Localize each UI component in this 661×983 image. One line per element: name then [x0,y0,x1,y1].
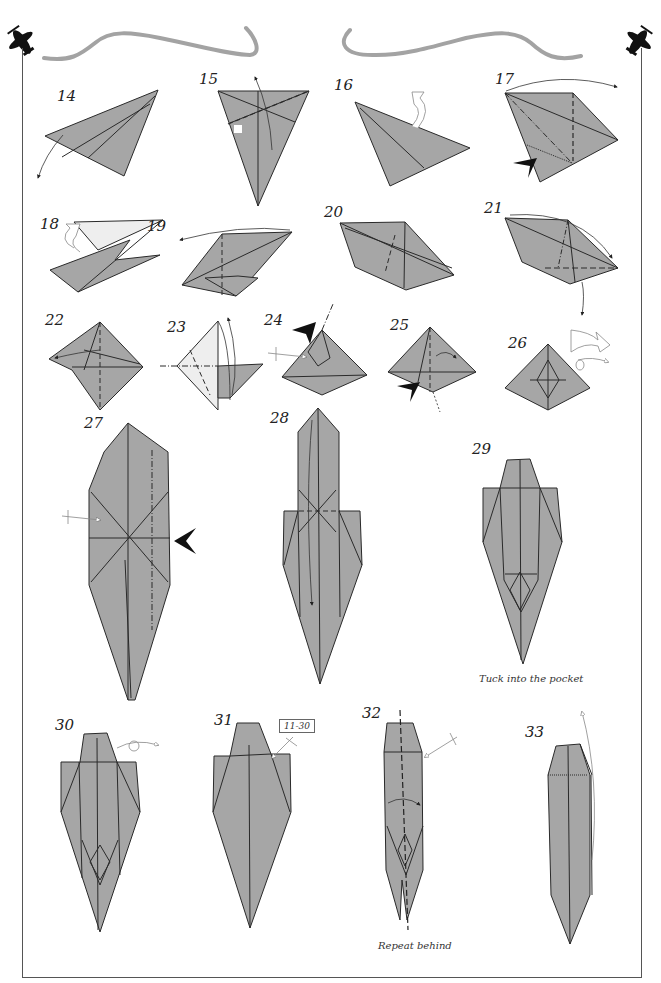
step-number: 26 [508,334,527,352]
step-number: 30 [55,716,74,734]
step-29-model [483,459,562,664]
step-30-model [61,733,158,932]
step-25-model [388,327,476,412]
step-31-model [213,723,297,928]
step-20-model [340,222,454,290]
step-15-model [218,77,309,206]
step-number: 16 [334,76,353,94]
step-31-reference-box: 11-30 [279,719,315,733]
step-number: 27 [84,414,103,432]
step-19-model [180,228,292,296]
step-number: 20 [324,203,343,221]
step-28-model [283,408,362,684]
step-32-caption: Repeat behind [378,940,452,951]
step-number: 15 [199,70,218,88]
step-16-model [355,92,470,186]
step-33-model [548,712,594,944]
step-number: 17 [495,70,514,88]
step-21-model [505,215,618,315]
step-number: 14 [57,87,76,105]
step-number: 33 [525,723,544,741]
step-number: 29 [472,440,491,458]
step-29-caption: Tuck into the pocket [479,673,583,684]
step-27-model [62,423,196,700]
step-14-model [38,90,158,178]
step-32-model [384,710,457,930]
step-number: 25 [390,316,409,334]
step-number: 31 [214,711,233,729]
step-number: 24 [264,311,283,329]
step-number: 32 [362,704,381,722]
step-22-model [49,322,143,410]
step-number: 21 [484,199,503,217]
step-number: 19 [147,217,166,235]
step-number: 18 [40,215,59,233]
step-number: 23 [167,318,186,336]
step-17-model [505,79,618,182]
diagram-canvas [0,0,661,983]
step-number: 28 [270,409,289,427]
step-number: 22 [45,311,64,329]
